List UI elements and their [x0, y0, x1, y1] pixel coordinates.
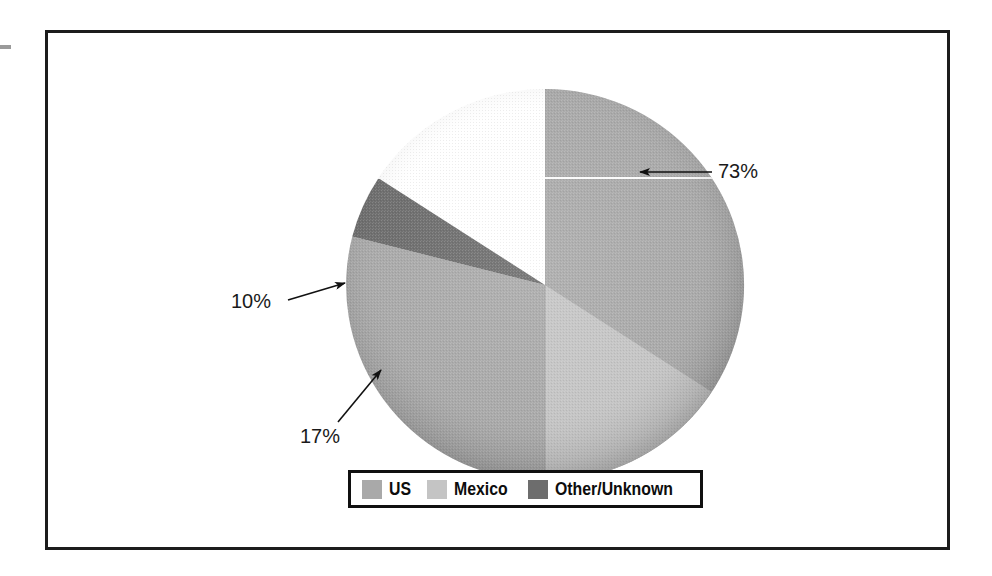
- scan-artifact-tick: [0, 45, 11, 49]
- legend-swatch-mexico: [427, 480, 447, 499]
- data-label-other: 10%: [231, 290, 271, 313]
- data-label-mexico: 17%: [300, 425, 340, 448]
- chart-frame: US Mexico Other/Unknown: [45, 30, 950, 550]
- legend-label-us: US: [389, 480, 411, 498]
- pie-rim-shading: [346, 89, 744, 481]
- data-label-us: 73%: [718, 160, 758, 183]
- legend-swatch-other: [528, 480, 548, 499]
- pie-chart: [345, 88, 745, 482]
- legend-swatch-us: [362, 480, 382, 499]
- pie-svg: [345, 88, 745, 482]
- legend-item-mexico: Mexico: [427, 480, 515, 499]
- page-root: US Mexico Other/Unknown 73% 10% 17%: [0, 0, 992, 576]
- chart-legend: US Mexico Other/Unknown: [348, 470, 703, 508]
- legend-item-other: Other/Unknown: [528, 480, 689, 499]
- legend-label-mexico: Mexico: [454, 480, 508, 498]
- legend-item-us: US: [362, 480, 414, 499]
- legend-label-other: Other/Unknown: [555, 480, 673, 498]
